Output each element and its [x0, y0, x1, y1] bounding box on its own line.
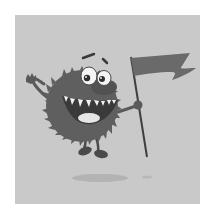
right-foot: [93, 149, 108, 159]
pole-shadow: [142, 176, 152, 179]
tongue: [78, 113, 100, 123]
right-eyebrow: [103, 59, 107, 63]
germ-monster-illustration: [0, 0, 210, 222]
left-eyebrow: [83, 54, 94, 58]
ground-shadow: [72, 174, 128, 182]
right-hand: [134, 101, 143, 110]
flag: [131, 53, 196, 80]
